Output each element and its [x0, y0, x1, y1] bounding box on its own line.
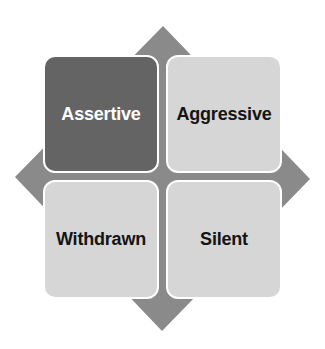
quadrant-label: Assertive: [61, 104, 140, 125]
quadrant-label: Aggressive: [176, 104, 271, 125]
quadrant-label: Silent: [200, 229, 248, 250]
quadrant-label: Withdrawn: [56, 229, 146, 250]
quadrant-aggressive: Aggressive: [166, 55, 282, 173]
quadrant-assertive: Assertive: [43, 55, 159, 173]
quadrant-withdrawn: Withdrawn: [43, 180, 159, 299]
quadrant-silent: Silent: [166, 180, 282, 299]
quadrant-diagram: Assertive Aggressive Withdrawn Silent: [0, 0, 325, 349]
